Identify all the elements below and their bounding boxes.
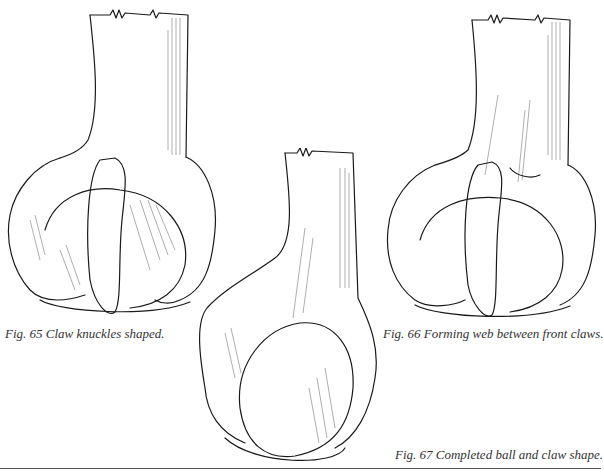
figure-66-caption: Fig. 66 Forming web between front claws.: [383, 326, 604, 342]
claw-foot-illustration: [380, 0, 601, 320]
page-bottom-rule: [0, 468, 601, 469]
figure-65-caption: Fig. 65 Claw knuckles shaped.: [5, 326, 165, 342]
claw-foot-illustration: [185, 148, 385, 468]
figure-67-drawing: [185, 148, 385, 468]
figure-66-drawing: [380, 0, 601, 320]
figure-67-caption: Fig. 67 Completed ball and claw shape.: [395, 447, 603, 463]
